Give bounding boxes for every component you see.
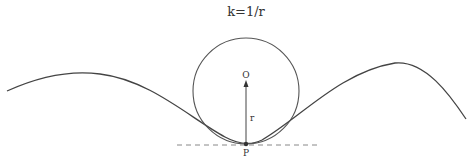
arrow-head-icon [244,80,249,87]
point-p-marker [244,142,248,146]
radius-label: r [250,113,255,123]
curvature-diagram: k=1/r O r P [0,0,472,160]
curve [7,63,466,144]
center-label: O [242,70,249,80]
point-label: P [243,148,249,158]
formula-title: k=1/r [227,4,265,19]
